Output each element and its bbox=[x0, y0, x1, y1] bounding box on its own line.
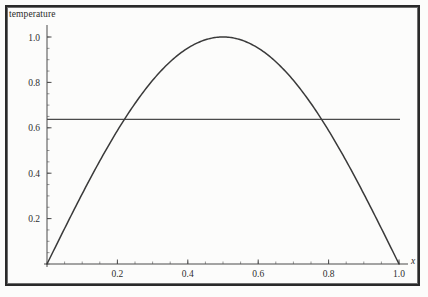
axis-line-group bbox=[44, 25, 408, 267]
y-tick-label: 0.6 bbox=[28, 123, 40, 133]
y-tick-label: 0.8 bbox=[28, 78, 40, 88]
temperature-curve bbox=[47, 37, 399, 264]
major-tick-group bbox=[47, 37, 399, 264]
x-tick-label: 0.2 bbox=[111, 269, 123, 279]
x-tick-label: 0.4 bbox=[182, 269, 194, 279]
y-tick-label: 0.4 bbox=[28, 169, 40, 179]
x-tick-label: 1.0 bbox=[393, 269, 405, 279]
y-tick-label: 1.0 bbox=[28, 33, 40, 43]
x-tick-label-group: 0.20.40.60.81.0 bbox=[111, 269, 405, 279]
figure-container: temperature x 0.20.40.60.81.0 0.20.40.60… bbox=[0, 0, 428, 297]
minor-tick-group bbox=[47, 37, 399, 264]
plot-area: 0.20.40.60.81.0 0.20.40.60.81.0 bbox=[0, 0, 428, 297]
x-tick-label: 0.8 bbox=[323, 269, 335, 279]
y-tick-label: 0.2 bbox=[28, 214, 40, 224]
y-tick-label-group: 0.20.40.60.81.0 bbox=[28, 33, 40, 225]
x-tick-label: 0.6 bbox=[252, 269, 264, 279]
